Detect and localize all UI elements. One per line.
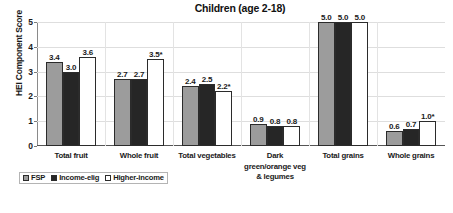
legend-label: FSP: [31, 173, 45, 182]
x-axis-label-line: green/orange veg: [241, 162, 309, 173]
bar: 0.8: [283, 126, 300, 146]
x-axis-label: Whole grains: [377, 151, 445, 162]
bar: 0.7: [403, 129, 420, 146]
x-axis-label: Whole fruit: [105, 151, 173, 162]
bar-group: 2.42.52.2*: [173, 22, 241, 146]
legend-label: Higher-income: [113, 173, 164, 182]
legend-item[interactable]: Higher-income: [105, 173, 164, 182]
legend-swatch: [51, 175, 57, 181]
bar-group: 0.90.80.8: [241, 22, 309, 146]
x-axis-label: Total fruit: [37, 151, 105, 162]
bar-value-label: 5.0: [354, 13, 365, 22]
bar: 2.7: [114, 79, 131, 146]
bar: 3.5*: [147, 59, 164, 146]
y-tick-label: 1: [28, 116, 33, 126]
bar-value-label: 3.5*: [149, 50, 162, 59]
y-axis-title: HEI Component Score: [14, 0, 24, 108]
bar-value-label: 3.0: [66, 63, 77, 72]
x-axis-label-line: Total vegetables: [173, 151, 241, 162]
bar-value-label: 2.7: [117, 70, 128, 79]
chart-title: Children (age 2-18): [150, 2, 330, 14]
legend-swatch: [105, 175, 111, 181]
y-tick-label: 0: [28, 141, 33, 151]
legend-item[interactable]: Income-elig: [51, 173, 99, 182]
bar: 5.0: [318, 22, 335, 146]
x-axis-label-line: & legumes: [241, 172, 309, 183]
x-axis-label-line: Total fruit: [37, 151, 105, 162]
y-tick-mark: [34, 146, 37, 147]
bar-value-label: 5.0: [321, 13, 332, 22]
x-axis-label: Total grains: [309, 151, 377, 162]
y-tick-label: 5: [28, 17, 33, 27]
bar-value-label: 2.7: [134, 70, 145, 79]
legend-label: Income-elig: [59, 173, 99, 182]
bar: 0.8: [267, 126, 284, 146]
y-tick-label: 2: [28, 91, 33, 101]
bar-value-label: 3.6: [82, 48, 93, 57]
bar-value-label: 3.4: [49, 53, 60, 62]
bar-value-label: 0.9: [253, 115, 264, 124]
x-axis-label-line: Whole grains: [377, 151, 445, 162]
legend-item[interactable]: FSP: [23, 173, 45, 182]
x-axis-label-line: Whole fruit: [105, 151, 173, 162]
bar: 2.2*: [215, 91, 232, 146]
bar: 3.6: [79, 57, 96, 146]
bar: 2.5: [199, 84, 216, 146]
x-axis-label-line: Total grains: [309, 151, 377, 162]
bar-value-label: 0.8: [286, 117, 297, 126]
bar-group: 2.72.73.5*: [105, 22, 173, 146]
bar: 5.0: [351, 22, 368, 146]
bar: 3.0: [63, 72, 80, 146]
x-axis-label: Total vegetables: [173, 151, 241, 162]
bar-group: 5.05.05.0: [309, 22, 377, 146]
bar-value-label: 0.8: [270, 117, 281, 126]
bar: 5.0: [335, 22, 352, 146]
chart-legend: FSPIncome-eligHigher-income: [19, 172, 168, 184]
hei-component-score-bar-chart: Children (age 2-18) HEI Component Score …: [0, 0, 453, 213]
bar-group: 3.43.03.6: [37, 22, 105, 146]
bar: 2.4: [182, 86, 199, 146]
bar-value-label: 2.4: [185, 77, 196, 86]
y-tick-label: 4: [28, 42, 33, 52]
x-axis-label-line: Dark: [241, 151, 309, 162]
bar-value-label: 1.0*: [421, 112, 434, 121]
bar: 0.9: [250, 124, 267, 146]
plot-area: 012345 3.43.03.62.72.73.5*2.42.52.2*0.90…: [37, 22, 445, 146]
bar: 1.0*: [419, 121, 436, 146]
bar: 2.7: [131, 79, 148, 146]
bar-value-label: 0.7: [406, 120, 417, 129]
legend-swatch: [23, 175, 29, 181]
y-tick-label: 3: [28, 67, 33, 77]
bar-value-label: 2.5: [202, 75, 213, 84]
bar-value-label: 5.0: [338, 13, 349, 22]
bar-group: 0.60.71.0*: [377, 22, 445, 146]
bar: 3.4: [46, 62, 63, 146]
bar-value-label: 2.2*: [217, 82, 230, 91]
bar-value-label: 0.6: [389, 122, 400, 131]
bar: 0.6: [386, 131, 403, 146]
x-axis-label: Darkgreen/orange veg& legumes: [241, 151, 309, 183]
